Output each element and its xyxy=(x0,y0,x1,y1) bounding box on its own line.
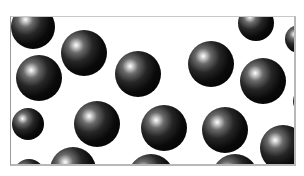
sphere xyxy=(260,125,296,166)
sphere xyxy=(212,154,258,166)
sphere xyxy=(128,154,174,166)
sphere xyxy=(141,105,187,151)
sphere xyxy=(50,147,96,166)
sphere xyxy=(238,16,274,41)
image-frame xyxy=(10,16,296,166)
sphere xyxy=(74,101,120,147)
sphere xyxy=(188,41,234,87)
sphere xyxy=(202,107,248,153)
sphere xyxy=(285,25,296,53)
sphere xyxy=(293,87,296,115)
sphere xyxy=(61,30,107,76)
sphere xyxy=(11,16,55,49)
sphere xyxy=(240,58,286,104)
sphere xyxy=(115,51,161,97)
sphere xyxy=(13,159,45,166)
sphere xyxy=(12,108,44,140)
sphere xyxy=(16,55,62,101)
